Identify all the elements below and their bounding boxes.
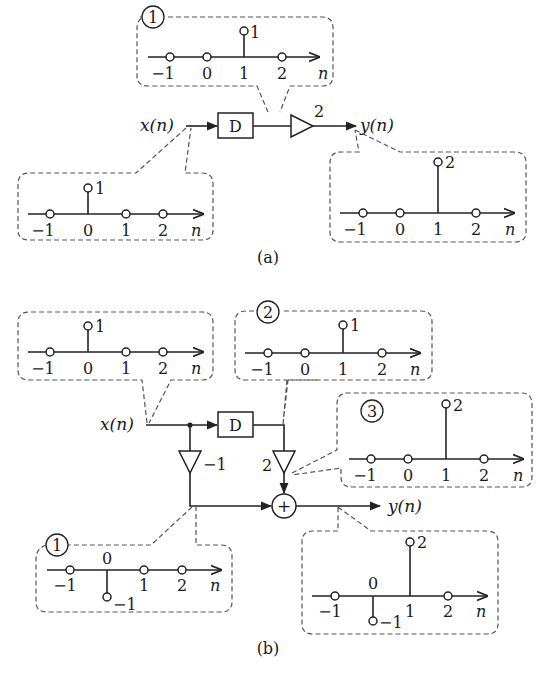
figure-canvas: 1 1 −1 0 1 2 n x(n) D 2 y(n) 1	[0, 0, 550, 677]
gain-amplifier-2	[273, 451, 295, 473]
value-label: 1	[350, 316, 360, 335]
caption-a: (a)	[257, 248, 279, 267]
node-marker-label: 1	[52, 536, 62, 555]
node-marker-label: 3	[367, 402, 377, 421]
value-label: 1	[95, 317, 105, 336]
gain-label: 2	[314, 102, 324, 121]
tick-label: 2	[377, 360, 387, 379]
tick-label: 1	[405, 602, 415, 621]
tick-label: 2	[158, 221, 168, 240]
tick-label: 1	[239, 64, 249, 83]
axis-label: n	[191, 359, 201, 378]
gain-label: 2	[262, 456, 272, 475]
axis-label: n	[476, 602, 486, 621]
tick-label: −1	[250, 360, 274, 379]
callout-node3-b: 3 2 −1 0 1 2 n	[292, 393, 532, 487]
value-label: 2	[417, 533, 427, 552]
callout-node1-b: 1 0 −1 −1 1 2 n	[36, 507, 232, 614]
node-marker-label: 1	[148, 8, 158, 27]
axis-label: n	[513, 466, 523, 485]
tick-label: 1	[338, 360, 348, 379]
axis-label: n	[318, 64, 328, 83]
value-label: 1	[95, 179, 105, 198]
input-label: x(n)	[140, 115, 174, 135]
output-label: y(n)	[359, 115, 394, 135]
tick-label: 2	[479, 466, 489, 485]
tick-label: 1	[433, 220, 443, 239]
tick-label: −1	[31, 221, 55, 240]
tick-label: 0	[102, 549, 112, 568]
tick-label: 0	[300, 360, 310, 379]
tick-label: 2	[471, 220, 481, 239]
tick-label: 0	[403, 466, 413, 485]
tick-label: 2	[158, 359, 168, 378]
input-label: x(n)	[100, 414, 134, 434]
tick-label: 0	[395, 220, 405, 239]
tick-label: −1	[31, 359, 55, 378]
callout-input-b: 1 −1 0 1 2 n	[18, 312, 213, 423]
callout-node1-a: 1 1 −1 0 1 2 n	[137, 6, 333, 112]
delay-label: D	[229, 416, 242, 435]
node-marker-label: 2	[263, 303, 273, 322]
tick-label: −1	[343, 220, 367, 239]
tick-label: 1	[441, 466, 451, 485]
callout-node2-b: 2 1 −1 0 1 2 n	[235, 301, 432, 424]
output-label: y(n)	[387, 496, 422, 516]
signal-flow-figure: 1 1 −1 0 1 2 n x(n) D 2 y(n) 1	[0, 0, 550, 677]
axis-label: n	[210, 576, 220, 595]
callout-output-a: 2 −1 0 1 2 n	[330, 130, 526, 242]
delay-label: D	[229, 117, 242, 136]
value-label: 2	[453, 396, 463, 415]
axis-label: n	[191, 221, 201, 240]
value-label: −1	[379, 613, 403, 632]
tick-label: 0	[83, 221, 93, 240]
tick-label: 0	[368, 574, 378, 593]
tick-label: −1	[151, 64, 175, 83]
gain-label: −1	[203, 455, 227, 474]
tick-label: −1	[53, 576, 77, 595]
tick-label: 2	[277, 64, 287, 83]
value-label: 2	[445, 153, 455, 172]
callout-input-a: 1 −1 0 1 2 n	[18, 128, 213, 240]
tick-label: 1	[121, 359, 131, 378]
tick-label: 1	[139, 576, 149, 595]
gain-amplifier	[291, 115, 313, 137]
tick-label: −1	[353, 466, 377, 485]
gain-amplifier-neg1	[179, 451, 201, 473]
tick-label: 2	[443, 602, 453, 621]
axis-label: n	[410, 360, 420, 379]
callout-output-b: 2 −1 0 −1 1 2 n	[302, 507, 498, 634]
tick-label: 0	[202, 64, 212, 83]
adder-symbol: +	[277, 496, 291, 516]
tick-label: 1	[121, 221, 131, 240]
tick-label: 0	[83, 359, 93, 378]
value-label: −1	[113, 595, 137, 614]
caption-b: (b)	[257, 639, 280, 658]
part-a: 1 1 −1 0 1 2 n x(n) D 2 y(n) 1	[18, 6, 526, 267]
part-b: 1 −1 0 1 2 n 2 1 −1 0 1 2 n	[18, 301, 532, 658]
tick-label: −1	[318, 602, 342, 621]
value-label: 1	[250, 23, 260, 42]
tick-label: 2	[177, 576, 187, 595]
axis-label: n	[505, 220, 515, 239]
